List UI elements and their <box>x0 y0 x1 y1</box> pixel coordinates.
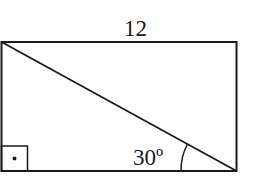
side-length-label: 12 <box>124 16 147 41</box>
right-angle-dot <box>13 157 17 161</box>
geometry-diagram: 12 30º <box>0 0 258 192</box>
angle-arc <box>181 144 188 171</box>
diagonal-line <box>2 42 237 171</box>
angle-label: 30º <box>133 145 163 170</box>
